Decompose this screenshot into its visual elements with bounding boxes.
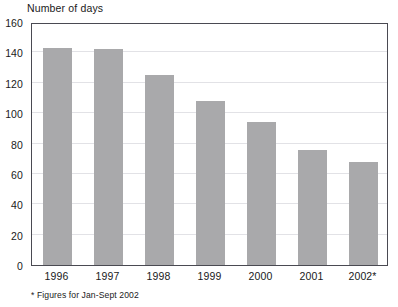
bar-slot xyxy=(134,24,185,265)
x-tick-label: 1998 xyxy=(133,270,184,283)
y-tick-label: 40 xyxy=(0,200,27,210)
y-tick-label: 100 xyxy=(0,109,27,119)
x-tick-label: 1996 xyxy=(31,270,82,283)
bars-layer xyxy=(32,24,387,265)
y-tick-label: 140 xyxy=(0,48,27,58)
bar-slot xyxy=(287,24,338,265)
chart-footnote: * Figures for Jan-Sept 2002 xyxy=(31,290,139,301)
y-axis: 160140120100806040200 xyxy=(0,23,27,266)
bar-1997 xyxy=(94,49,122,265)
y-tick-label: 120 xyxy=(0,79,27,89)
bar-2000 xyxy=(247,122,275,265)
y-tick-label: 160 xyxy=(0,18,27,28)
bar-slot xyxy=(185,24,236,265)
x-axis: 1996199719981999200020012002* xyxy=(31,270,388,286)
bar-1999 xyxy=(196,101,224,265)
y-tick-label: 0 xyxy=(0,261,27,271)
x-tick-label: 2002* xyxy=(337,270,388,283)
bar-1996 xyxy=(43,48,71,265)
bar-slot xyxy=(32,24,83,265)
x-tick-label: 2000 xyxy=(235,270,286,283)
x-tick-label: 2001 xyxy=(286,270,337,283)
bar-slot xyxy=(236,24,287,265)
bar-slot xyxy=(338,24,389,265)
x-tick-label: 1997 xyxy=(82,270,133,283)
bar-chart-figure: Number of days 160140120100806040200 199… xyxy=(0,0,398,307)
bar-2002 xyxy=(349,162,377,265)
x-tick-label: 1999 xyxy=(184,270,235,283)
bar-slot xyxy=(83,24,134,265)
plot-area xyxy=(31,23,388,266)
y-tick-label: 80 xyxy=(0,140,27,150)
y-tick-label: 20 xyxy=(0,231,27,241)
chart-title: Number of days xyxy=(27,2,103,15)
y-tick-label: 60 xyxy=(0,170,27,180)
bar-2001 xyxy=(298,150,326,265)
bar-1998 xyxy=(145,75,173,265)
